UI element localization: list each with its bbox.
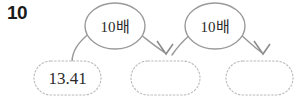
connector-box1-to-op1 [72, 33, 90, 62]
value-box-1-text: 13.41 [48, 69, 86, 88]
operation-ellipse-1-label: 10배 [101, 19, 130, 35]
worksheet-problem: 10 13.41 10배 10배 [0, 0, 295, 100]
multiplication-chain-diagram: 13.41 10배 10배 [0, 0, 295, 100]
value-box-2[interactable] [131, 61, 200, 95]
connector-op1-to-box2 [141, 35, 164, 52]
arrow-head-to-box2 [157, 41, 173, 54]
value-box-3[interactable] [226, 61, 293, 95]
operation-ellipse-2-label: 10배 [201, 19, 230, 35]
connector-op2-to-box3 [240, 34, 261, 52]
